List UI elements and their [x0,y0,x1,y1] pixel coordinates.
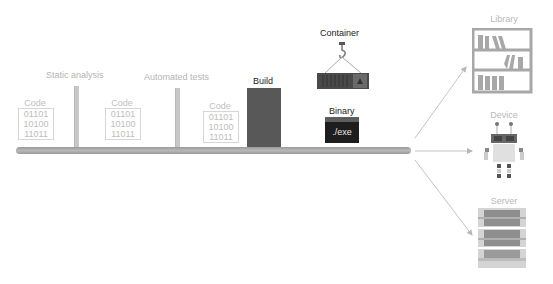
library-label: Library [474,14,534,24]
arrow-to-server [415,160,472,235]
bookshelf-icon [472,28,534,96]
server-rack-icon [478,208,528,270]
robot-icon [480,120,530,184]
distribution-arrows [0,0,553,284]
server-label: Server [474,196,534,206]
arrow-to-library [415,67,466,138]
device-label: Device [474,110,534,120]
